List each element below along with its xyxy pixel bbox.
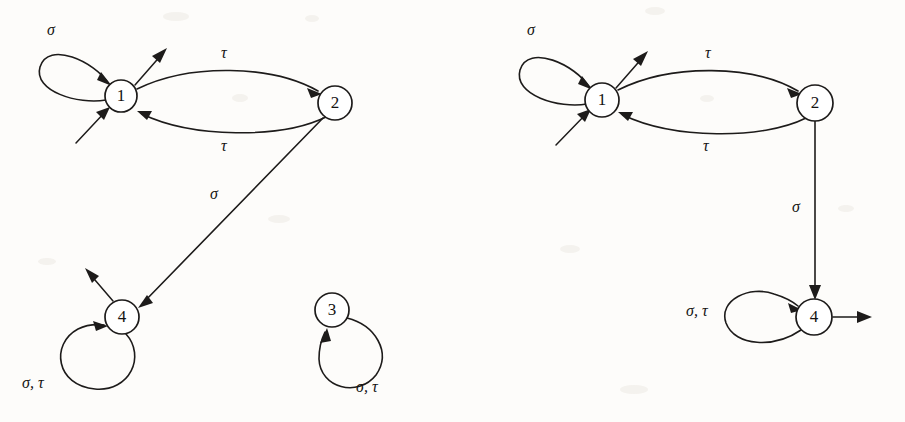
left-state-3[interactable]: 3 (315, 293, 349, 327)
left-state-2[interactable]: 2 (318, 86, 352, 120)
left-marked-arrow-state-4 (85, 268, 113, 301)
right-transition-2-to-1-tau (618, 112, 806, 134)
right-transition-2-to-4-sigma (809, 121, 821, 300)
left-state-4-label: 4 (118, 307, 127, 326)
right-label-tau-top: τ (705, 45, 711, 61)
paper-speck (700, 95, 714, 102)
right-label-tau-bottom: τ (703, 138, 709, 154)
left-transition-1-to-2-tau (137, 70, 322, 98)
right-label-sigma-selfloop-1: σ (527, 22, 535, 38)
right-transition-4-to-4-sigma-tau (725, 291, 802, 342)
right-state-4[interactable]: 4 (796, 299, 832, 335)
right-marked-arrow-state-1 (616, 51, 648, 88)
left-label-sigma-tau-state-4: σ, τ (22, 375, 44, 391)
right-initial-arrow-state-1 (556, 109, 591, 145)
paper-speck (163, 12, 189, 21)
paper-speck (838, 205, 854, 212)
left-transition-2-to-1-tau (137, 111, 326, 133)
left-state-3-label: 3 (328, 300, 337, 319)
left-state-1-label: 1 (117, 86, 126, 105)
right-state-1-label: 1 (598, 90, 607, 109)
left-state-2-label: 2 (331, 93, 340, 112)
right-label-sigma-tau-state-4: σ, τ (686, 303, 708, 319)
left-label-tau-top: τ (221, 45, 227, 61)
paper-speck (620, 385, 648, 394)
paper-speck (305, 15, 319, 22)
left-transition-1-to-1-sigma (39, 54, 112, 101)
paper-speck (268, 215, 290, 223)
paper-speck (645, 7, 665, 15)
paper-speck (38, 258, 56, 265)
right-transition-1-to-2-tau (618, 71, 802, 98)
right-marked-arrow-state-4 (833, 311, 872, 323)
left-state-4[interactable]: 4 (105, 300, 139, 334)
left-label-sigma-tau-state-3: σ, τ (356, 379, 378, 395)
right-state-4-label: 4 (810, 307, 819, 326)
left-label-tau-bottom: τ (221, 138, 227, 154)
left-automaton-canvas: 1 2 4 3 (0, 0, 905, 422)
right-state-2[interactable]: 2 (797, 85, 833, 121)
right-label-sigma-vertical: σ (792, 199, 800, 215)
left-label-sigma-diagonal: σ (210, 186, 218, 202)
right-transition-1-to-1-sigma (519, 58, 593, 105)
left-label-sigma-selfloop-1: σ (47, 22, 55, 38)
paper-speck (232, 94, 248, 102)
paper-speck (560, 245, 580, 253)
right-state-2-label: 2 (811, 93, 820, 112)
right-state-1[interactable]: 1 (585, 83, 619, 117)
left-state-1[interactable]: 1 (105, 80, 137, 112)
left-initial-arrow-state-1 (76, 107, 110, 143)
figure-root: 1 2 4 3 (0, 0, 905, 422)
left-transition-2-to-4-sigma (138, 118, 323, 308)
